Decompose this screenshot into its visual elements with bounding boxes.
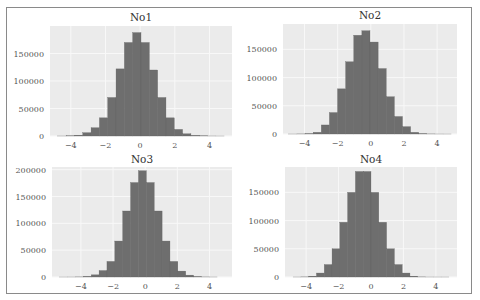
histogram-bar: [133, 33, 141, 136]
histogram-bar: [115, 241, 123, 277]
y-tick-label: 50000: [19, 105, 44, 114]
x-tick-label: −4: [65, 141, 77, 150]
histogram-bar: [183, 134, 191, 136]
histogram-bar: [191, 135, 199, 136]
histogram-bar: [146, 183, 154, 277]
subplot-no2: No2−4−2024050000100000150000: [246, 9, 457, 148]
histogram-bar: [402, 127, 410, 134]
x-tick-label: 2: [401, 282, 406, 291]
y-tick-label: 150000: [248, 188, 279, 197]
histogram-bar: [74, 135, 82, 136]
histogram-bar: [99, 118, 107, 136]
x-tick-label: 4: [435, 139, 440, 148]
histogram-bar: [340, 222, 348, 277]
histogram-bar: [123, 211, 131, 277]
histogram-bar: [162, 241, 170, 277]
histogram-bar: [410, 276, 418, 277]
histogram-bar: [158, 98, 166, 137]
histogram-bar: [387, 249, 395, 277]
x-tick-label: −2: [107, 282, 119, 291]
histogram-bar: [394, 265, 402, 277]
y-tick-label: 0: [274, 273, 279, 282]
x-tick-label: 4: [207, 141, 212, 150]
x-tick-label: 4: [433, 282, 438, 291]
y-tick-label: 0: [272, 130, 277, 139]
histogram-bar: [379, 222, 387, 277]
histogram-bar: [354, 35, 362, 134]
x-tick-label: 2: [401, 139, 406, 148]
histogram-bar: [186, 275, 194, 277]
y-tick-label: 50000: [252, 102, 277, 111]
y-tick-label: 0: [39, 132, 44, 141]
histogram-bar: [402, 273, 410, 277]
x-tick-label: 2: [175, 282, 180, 291]
histogram-bar: [348, 192, 356, 277]
x-tick-label: 0: [138, 141, 143, 150]
y-tick-label: 50000: [21, 246, 46, 255]
y-tick-label: 150000: [13, 50, 44, 59]
histogram-bar: [309, 276, 317, 277]
x-tick-label: 2: [172, 141, 177, 150]
histogram-bar: [378, 69, 386, 134]
histogram-bar: [91, 275, 99, 277]
histogram-bar: [124, 43, 132, 137]
x-tick-label: 0: [143, 282, 148, 291]
subplot-no1: No1−4−2024050000100000150000: [13, 11, 232, 150]
histogram-bar: [411, 132, 419, 134]
histogram-bar: [346, 62, 354, 134]
y-tick-label: 100000: [246, 74, 277, 83]
x-tick-label: −2: [100, 141, 112, 150]
histogram-bar: [91, 128, 99, 136]
histogram-bar: [178, 271, 186, 277]
y-tick-label: 150000: [246, 45, 277, 54]
histogram-bar: [332, 249, 340, 277]
x-tick-label: 0: [368, 282, 373, 291]
y-tick-label: 150000: [15, 193, 46, 202]
y-tick-label: 100000: [15, 219, 46, 228]
histogram-bar: [116, 69, 124, 136]
x-tick-label: −2: [333, 282, 345, 291]
x-tick-label: −4: [300, 282, 312, 291]
histogram-bar: [154, 211, 162, 277]
histogram-bar: [149, 70, 157, 136]
histogram-bar: [170, 261, 178, 277]
histogram-bar: [99, 271, 107, 277]
histogram-bar: [83, 276, 91, 277]
subplot-no4: No4−4−2024050000100000150000: [248, 153, 457, 291]
x-tick-label: −4: [299, 139, 311, 148]
x-tick-label: −4: [75, 282, 87, 291]
histogram-bar: [83, 133, 91, 136]
y-tick-label: 0: [41, 273, 46, 282]
x-tick-label: 4: [207, 282, 212, 291]
subplot-title: No4: [360, 153, 383, 165]
histogram-bar: [141, 43, 149, 137]
x-tick-label: −2: [332, 139, 344, 148]
histogram-bar: [131, 183, 139, 277]
histogram-bar: [371, 192, 379, 277]
subplot-no3: No3−4−2024050000100000150000200000: [15, 153, 232, 291]
histogram-bar: [363, 172, 371, 277]
subplot-title: No3: [131, 153, 153, 165]
histogram-bar: [313, 132, 321, 134]
y-tick-label: 50000: [254, 245, 279, 254]
histogram-bar: [338, 89, 346, 134]
histogram-bar: [329, 113, 337, 134]
histogram-bar: [355, 172, 363, 277]
subplot-title: No2: [359, 9, 381, 21]
histogram-bar: [138, 171, 146, 277]
histogram-bar: [174, 129, 182, 136]
histogram-bar: [166, 118, 174, 136]
histogram-bar: [321, 125, 329, 134]
y-tick-label: 100000: [248, 217, 279, 226]
y-tick-label: 100000: [13, 77, 44, 86]
histogram-bar: [370, 42, 378, 134]
x-tick-label: 0: [368, 139, 373, 148]
histogram-figure: No1−4−2024050000100000150000No2−4−202405…: [0, 0, 480, 300]
histogram-bar: [107, 261, 115, 277]
histogram-bar: [316, 273, 324, 277]
y-tick-label: 200000: [15, 166, 46, 175]
histogram-bar: [324, 265, 332, 277]
histogram-bar: [394, 117, 402, 134]
histogram-bar: [362, 31, 370, 134]
histogram-bar: [108, 98, 116, 137]
